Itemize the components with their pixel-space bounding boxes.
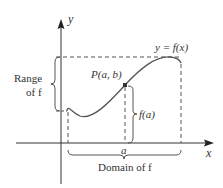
- domain-range-diagram: y x y = f(x) P(a, b) f(a) a Range of f D…: [0, 0, 223, 188]
- height-brace: [128, 86, 137, 143]
- range-label-line1: Range: [14, 73, 42, 84]
- height-label: f(a): [139, 109, 155, 120]
- domain-label: Domain of f: [98, 162, 152, 173]
- range-brace: [51, 57, 60, 111]
- y-axis-arrow-icon: [58, 19, 65, 29]
- range-label-line2: of f: [26, 87, 42, 98]
- x-axis-label: x: [206, 147, 211, 159]
- point-a-label: a: [121, 145, 127, 156]
- y-axis-label: y: [68, 13, 73, 25]
- curve-label: y = f(x): [155, 42, 188, 53]
- point-p-label: P(a, b): [91, 69, 122, 80]
- point-p-marker: [123, 83, 127, 87]
